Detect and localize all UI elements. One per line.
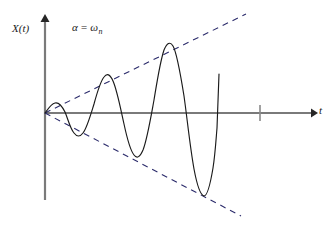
omega-subscript: n [99, 27, 104, 36]
omega-symbol: ω [90, 21, 98, 33]
y-axis-label: X(t) [12, 22, 29, 34]
y-axis-arrowhead [41, 14, 50, 22]
resonance-curve [45, 43, 219, 196]
x-axis-arrowhead [311, 109, 318, 118]
lower-envelope-line [45, 113, 241, 216]
x-axis-label: t [319, 104, 322, 116]
resonance-figure: X(t) t α=ωn [0, 0, 331, 234]
resonance-condition-annotation: α=ωn [72, 21, 103, 36]
equals-symbol: = [78, 21, 90, 33]
plot-canvas [0, 0, 331, 234]
